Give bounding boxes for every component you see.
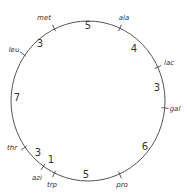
gene-label-met: met bbox=[37, 14, 51, 22]
distance-lac-gal: 3 bbox=[154, 82, 160, 93]
distance-leu-met: 3 bbox=[37, 38, 43, 49]
gene-label-ala: ala bbox=[119, 14, 130, 22]
gene-label-leu: leu bbox=[9, 46, 20, 54]
distance-met-ala: 5 bbox=[85, 20, 91, 31]
gene-label-thr: thr bbox=[7, 144, 18, 152]
distance-ala-lac: 4 bbox=[131, 43, 137, 54]
gene-label-lac: lac bbox=[164, 59, 174, 67]
gene-label-trp: trp bbox=[47, 181, 58, 189]
distance-trp-azi: 1 bbox=[48, 154, 54, 165]
gene-label-pro: pro bbox=[115, 181, 128, 189]
distance-azi-thr: 3 bbox=[35, 147, 41, 158]
distance-gal-pro: 6 bbox=[142, 141, 148, 152]
distance-pro-trp: 5 bbox=[83, 169, 89, 180]
marker-labels: metalalacgalprotrpazithrleu bbox=[7, 14, 180, 189]
circular-gene-map: metalalacgalprotrpazithrleu 543651373 bbox=[0, 0, 187, 195]
distance-labels: 543651373 bbox=[14, 20, 160, 180]
distance-thr-leu: 7 bbox=[14, 92, 20, 103]
tick-leu bbox=[20, 52, 26, 56]
gene-label-gal: gal bbox=[170, 105, 181, 113]
tick-gal bbox=[162, 108, 169, 109]
gene-label-azi: azi bbox=[32, 174, 42, 182]
